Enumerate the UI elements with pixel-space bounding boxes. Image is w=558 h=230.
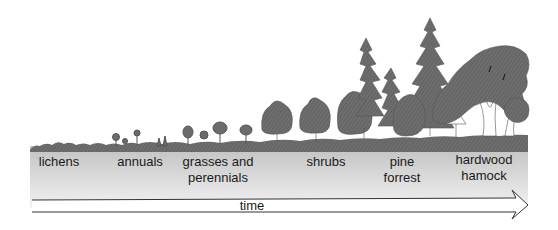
stage-label-line1: grasses and (183, 154, 254, 170)
stage-label-hardwood-hammock: hardwood hamock (455, 152, 512, 184)
succession-illustration (0, 0, 558, 230)
stage-label-line2: hamock (455, 168, 512, 184)
shrubs-plants (262, 98, 331, 142)
stage-label-line2: perennials (183, 170, 254, 186)
time-axis-label: time (240, 198, 265, 213)
stage-label-line1: shrubs (306, 154, 345, 170)
stage-label-line2: forrest (384, 170, 421, 186)
stage-label-line1: annuals (117, 154, 163, 170)
stage-label-line1: lichens (39, 154, 79, 170)
stage-label-line1: pine (384, 154, 421, 170)
stage-label-line1: hardwood (455, 152, 512, 168)
grass-strip (30, 135, 528, 152)
succession-diagram: lichens annuals grasses and perennials s… (0, 0, 558, 230)
stage-label-lichens: lichens (39, 154, 79, 170)
stage-label-annuals: annuals (117, 154, 163, 170)
stage-label-pine-forest: pine forrest (384, 154, 421, 186)
stage-label-shrubs: shrubs (306, 154, 345, 170)
hardwood-hammock-trees (432, 46, 529, 136)
stage-label-grasses-perennials: grasses and perennials (183, 154, 254, 186)
